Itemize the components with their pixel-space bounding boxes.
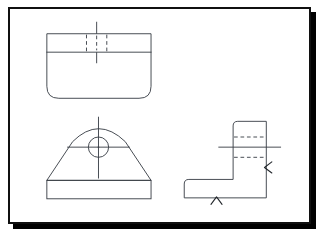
drawing-sheet bbox=[8, 7, 311, 224]
technical-drawing bbox=[8, 7, 307, 220]
top-view-outline bbox=[47, 34, 151, 99]
front-view bbox=[47, 117, 151, 199]
front-view-center-dot bbox=[98, 146, 100, 148]
drawing-canvas bbox=[0, 0, 320, 231]
front-view-base-plate bbox=[47, 180, 151, 198]
side-view-outline bbox=[184, 121, 266, 198]
top-view bbox=[47, 22, 151, 99]
side-view bbox=[184, 121, 281, 204]
surface-mark-right-arrowhead-icon bbox=[264, 162, 271, 173]
front-view-body-outline bbox=[47, 129, 151, 181]
